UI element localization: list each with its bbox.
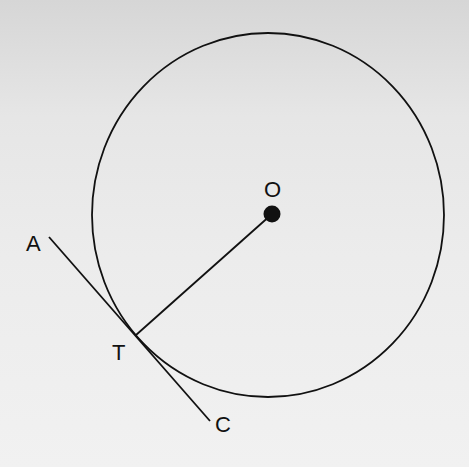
center-point-o — [264, 206, 281, 223]
geometry-diagram: O A T C — [0, 0, 469, 467]
label-c: C — [215, 412, 231, 437]
label-o: O — [264, 177, 281, 202]
label-t: T — [112, 340, 125, 365]
radius-ot — [136, 214, 272, 335]
label-a: A — [26, 231, 41, 256]
tangent-line-ac — [49, 237, 210, 421]
